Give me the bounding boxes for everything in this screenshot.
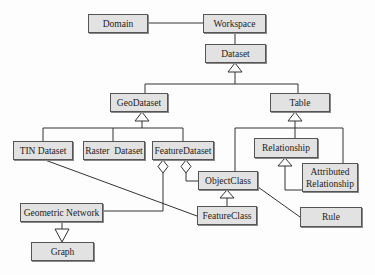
edge-dataset-children: [145, 72, 235, 93]
node-dataset: Dataset: [205, 44, 266, 63]
uml-diagram: Domain Workspace Dataset GeoDataset Tabl…: [0, 0, 375, 275]
edge-featuredataset-objectclass: [186, 173, 198, 181]
triangle-dataset: [228, 63, 242, 72]
triangle-graph: [55, 229, 69, 242]
edge-dataset-table: [235, 84, 298, 93]
node-feature-class: FeatureClass: [197, 206, 257, 225]
edge-geodataset-feature: [142, 128, 183, 141]
node-tin-dataset: TIN Dataset: [13, 141, 73, 160]
node-relationship: Relationship: [254, 138, 318, 158]
node-graph: Graph: [31, 242, 94, 261]
node-rule: Rule: [300, 207, 362, 227]
node-domain: Domain: [88, 14, 148, 33]
diamond-objectclass: [181, 160, 191, 173]
node-feature-dataset: FeatureDataset: [152, 141, 214, 160]
edge-objectclass-rule: [258, 187, 300, 217]
node-raster-dataset: Raster Dataset: [83, 141, 145, 160]
node-geodataset: GeoDataset: [110, 93, 168, 112]
node-geometric-network: Geometric Network: [20, 203, 103, 222]
triangle-table: [288, 112, 302, 121]
triangle-objectclass: [220, 190, 234, 198]
edge-geodataset-children: [43, 121, 142, 141]
node-table: Table: [270, 93, 330, 112]
node-object-class: ObjectClass: [198, 171, 258, 190]
connectors: [0, 0, 375, 275]
triangle-relationship: [278, 158, 292, 166]
diamond-geonet: [158, 160, 168, 173]
node-attributed-relationship: Attributed Relationship: [302, 163, 358, 192]
edge-relationship-attributed: [285, 166, 302, 190]
triangle-geodataset: [135, 112, 149, 121]
node-workspace: Workspace: [203, 14, 266, 33]
